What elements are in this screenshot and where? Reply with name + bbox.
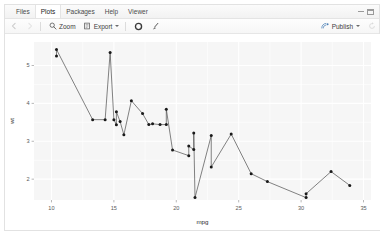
data-point (192, 132, 195, 135)
data-point (305, 192, 308, 195)
previous-plot-button[interactable] (7, 20, 21, 33)
data-point (104, 118, 107, 121)
chevron-down-icon[interactable] (356, 25, 360, 27)
publish-icon (321, 22, 330, 30)
y-tick-label: 4 (26, 100, 29, 106)
y-axis-title: wt (8, 118, 15, 125)
x-tick-label: 30 (298, 205, 304, 211)
data-point (159, 123, 162, 126)
data-point (122, 133, 125, 136)
data-point (112, 118, 115, 121)
remove-plot-button[interactable] (131, 20, 146, 33)
pane-tab-bar: Files Plots Packages Help Viewer (5, 5, 379, 19)
export-icon (84, 22, 92, 30)
data-point (151, 122, 154, 125)
data-point (165, 123, 168, 126)
data-point (210, 134, 213, 137)
x-tick-label: 35 (360, 205, 366, 211)
data-point (130, 99, 133, 102)
export-button[interactable]: Export (81, 20, 123, 33)
y-tick-label: 2 (26, 176, 29, 182)
data-point (109, 51, 112, 54)
y-tick-label: 5 (26, 62, 29, 68)
minimize-icon[interactable] (358, 11, 364, 12)
data-point (194, 196, 197, 199)
data-point (266, 180, 269, 183)
data-point (91, 118, 94, 121)
data-point (187, 145, 190, 148)
tab-help[interactable]: Help (100, 5, 123, 18)
x-tick-label: 15 (111, 205, 117, 211)
data-point (141, 112, 144, 115)
publish-button[interactable]: Publish (318, 20, 363, 33)
x-tick-label: 25 (236, 205, 242, 211)
data-point (210, 166, 213, 169)
chevron-down-icon[interactable] (115, 25, 119, 27)
data-point (171, 148, 174, 151)
zoom-button[interactable]: Zoom (46, 20, 79, 33)
data-point (348, 184, 351, 187)
x-tick-label: 10 (48, 205, 54, 211)
tab-plots[interactable]: Plots (35, 5, 61, 18)
tab-packages[interactable]: Packages (61, 5, 100, 18)
wt-vs-mpg-line-chart: 1015202530352345mpgwt (5, 34, 381, 230)
tab-files[interactable]: Files (11, 5, 35, 18)
back-arrow-icon (10, 22, 18, 30)
data-point (330, 170, 333, 173)
data-point (147, 123, 150, 126)
next-plot-button[interactable] (23, 20, 37, 33)
data-point (305, 196, 308, 199)
forward-arrow-icon (26, 22, 34, 30)
data-point (187, 154, 190, 157)
window-controls (358, 9, 379, 15)
x-tick-label: 20 (173, 205, 179, 211)
zoom-button-label: Zoom (59, 23, 76, 30)
clear-plots-button[interactable] (148, 20, 163, 33)
toolbar-separator (40, 22, 41, 31)
x-axis-title: mpg (196, 218, 209, 225)
data-point (230, 133, 233, 136)
magnifier-icon (49, 22, 57, 30)
plot-output-area[interactable]: 1015202530352345mpgwt (5, 34, 381, 230)
data-point (192, 148, 195, 151)
y-tick-label: 3 (26, 138, 29, 144)
broom-icon (151, 22, 160, 31)
data-point (55, 55, 58, 58)
data-point (115, 123, 118, 126)
refresh-button[interactable] (365, 20, 379, 33)
data-point (55, 48, 58, 51)
refresh-icon (368, 22, 376, 30)
data-point (250, 172, 253, 175)
toolbar-separator (125, 22, 126, 31)
pane-frame: Files Plots Packages Help Viewer (4, 4, 380, 231)
export-button-label: Export (94, 23, 113, 30)
remove-circle-icon (134, 22, 143, 31)
data-point (165, 108, 168, 111)
data-point (115, 110, 118, 113)
maximize-icon[interactable] (367, 9, 374, 15)
publish-button-label: Publish (332, 23, 353, 30)
data-point (119, 120, 122, 123)
plots-toolbar: Zoom Export (5, 19, 379, 34)
rstudio-plots-pane: Files Plots Packages Help Viewer (0, 0, 384, 235)
tab-viewer[interactable]: Viewer (123, 5, 153, 18)
